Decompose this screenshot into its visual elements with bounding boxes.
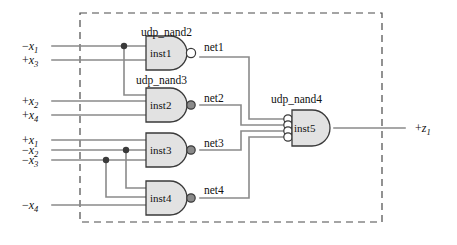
input-x4-pos-index: 4: [34, 114, 39, 124]
gate-inst4-label: inst4: [150, 192, 172, 204]
gate-inst5-label: inst5: [294, 122, 316, 134]
gate-inst5[interactable]: inst5: [284, 110, 330, 146]
junction-x3neg-dot: [103, 157, 109, 163]
wire-x2neg-branch: [126, 150, 147, 188]
circuit-svg: inst1 inst2 inst3 inst4 inst5: [0, 0, 457, 245]
net1-label: net1: [204, 41, 224, 53]
circuit-diagram-canvas: inst1 inst2 inst3 inst4 inst5: [0, 0, 457, 245]
svg-text:+x4: +x4: [22, 108, 39, 124]
svg-text:+z1: +z1: [415, 121, 431, 137]
input-label-x4-pos: +x4: [22, 108, 39, 124]
output-z1-index: 1: [426, 127, 430, 137]
udp-nand4-label: udp_nand4: [271, 93, 322, 106]
junction-x2neg-dot: [123, 147, 129, 153]
junction-x1neg-dot: [121, 43, 127, 49]
input-x1-neg-index: 1: [34, 45, 38, 55]
gate-inst2-label: inst2: [150, 99, 171, 111]
gate-inst3-label: inst3: [150, 144, 172, 156]
input-label-x4-neg: −x4: [22, 198, 39, 214]
output-label-z1: +z1: [415, 121, 431, 137]
svg-text:+x3: +x3: [22, 53, 38, 69]
udp-nand3-label: udp_nand3: [136, 74, 187, 87]
input-label-x3-pos: +x3: [22, 53, 38, 69]
net3-label: net3: [204, 137, 224, 149]
gate-inst4[interactable]: inst4: [146, 181, 195, 215]
udp-nand2-label: udp_nand2: [141, 26, 192, 39]
gate-inst1-label: inst1: [150, 47, 171, 59]
input-x2-neg-index: 2: [34, 149, 39, 159]
gate-inst4-output-bubble: [187, 194, 195, 202]
gate-inst5-input-bubble-3: [284, 133, 292, 141]
gate-inst3-output-bubble: [187, 146, 195, 154]
wire-x1neg-branch: [124, 46, 147, 95]
net2-label: net2: [204, 92, 224, 104]
input-x2-pos-index: 2: [34, 100, 39, 110]
input-x3-pos-index: 3: [33, 59, 38, 69]
wire-net1: [200, 57, 284, 119]
gate-inst1[interactable]: inst1: [146, 36, 196, 70]
gate-inst2[interactable]: inst2: [146, 88, 195, 122]
svg-text:−x4: −x4: [22, 198, 39, 214]
input-x3-neg-index: 3: [33, 159, 38, 169]
gate-inst2-output-bubble: [187, 101, 195, 109]
input-x1-pos-index: 1: [34, 139, 38, 149]
gate-inst3[interactable]: inst3: [146, 133, 195, 167]
gate-inst1-output-bubble: [186, 48, 195, 57]
net4-label: net4: [204, 184, 224, 196]
wire-net2: [200, 105, 284, 125]
input-x4-neg-index: 4: [34, 204, 39, 214]
